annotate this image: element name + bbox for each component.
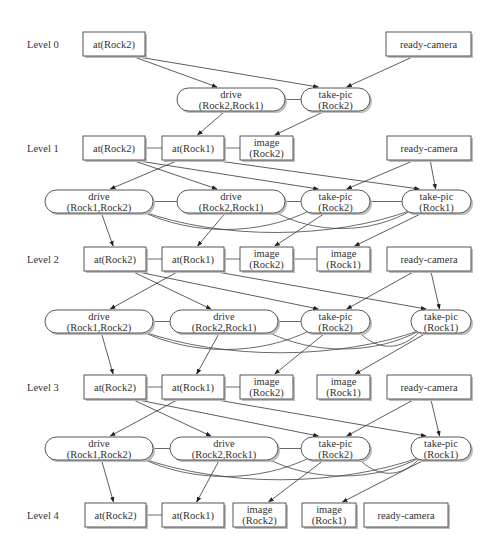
action-node: take-pic(Rock1) — [402, 190, 473, 215]
node-argument: (Rock1) — [326, 387, 361, 399]
action-node: drive(Rock1,Rock2) — [45, 190, 155, 215]
nodes-layer: at(Rock2)ready-cameradrive(Rock2,Rock1)t… — [45, 32, 473, 529]
node-argument: (Rock2) — [318, 100, 353, 112]
precondition-edge — [431, 399, 440, 436]
planning-graph: at(Rock2)ready-cameradrive(Rock2,Rock1)t… — [0, 0, 497, 551]
node-label: drive — [220, 191, 242, 202]
precondition-edge — [110, 271, 179, 309]
node-label: image — [254, 376, 280, 387]
level-label-2: Level 2 — [27, 254, 59, 265]
node-label: at(Rock1) — [172, 254, 214, 266]
node-label: image — [331, 376, 357, 387]
precondition-edge — [347, 271, 415, 309]
node-label: at(Rock1) — [172, 510, 214, 522]
node-label: drive — [88, 311, 110, 322]
precondition-edge — [133, 56, 319, 87]
precondition-edge — [212, 399, 426, 436]
action-node: drive(Rock2,Rock1) — [177, 190, 287, 215]
action-node: drive(Rock2,Rock1) — [170, 437, 280, 462]
node-argument: (Rock1) — [424, 322, 459, 334]
effect-edge — [198, 111, 226, 135]
proposition-node: at(Rock1) — [162, 503, 226, 529]
proposition-node: image(Rock2) — [233, 503, 288, 529]
node-label: drive — [88, 438, 110, 449]
action-node: take-pic(Rock2) — [301, 88, 372, 113]
precondition-edge — [431, 271, 440, 309]
action-node: drive(Rock2,Rock1) — [177, 88, 287, 113]
node-argument: (Rock2) — [318, 449, 353, 461]
action-node: take-pic(Rock1) — [411, 310, 473, 335]
node-argument: (Rock2) — [249, 148, 284, 160]
effect-edge — [342, 460, 424, 502]
node-argument: (Rock1,Rock2) — [67, 449, 132, 461]
node-label: take-pic — [424, 438, 458, 449]
action-node: take-pic(Rock2) — [301, 190, 372, 215]
node-label: take-pic — [319, 438, 353, 449]
node-argument: (Rock1,Rock2) — [67, 322, 132, 334]
node-label: drive — [88, 191, 110, 202]
node-argument: (Rock2,Rock1) — [192, 449, 257, 461]
node-argument: (Rock1) — [424, 449, 459, 461]
node-label: image — [254, 248, 280, 259]
precondition-edge — [212, 271, 426, 309]
node-label: at(Rock2) — [93, 39, 135, 51]
action-node: take-pic(Rock2) — [301, 310, 372, 335]
node-argument: (Rock2) — [242, 515, 277, 527]
effect-edge — [275, 213, 325, 246]
node-argument: (Rock1) — [326, 259, 361, 271]
node-label: drive — [213, 311, 235, 322]
level-label-1: Level 1 — [27, 143, 59, 154]
node-label: take-pic — [420, 191, 454, 202]
proposition-node: at(Rock2) — [83, 136, 147, 162]
proposition-node: image(Rock1) — [317, 375, 372, 401]
effect-edge — [197, 333, 220, 374]
effect-edge — [197, 460, 220, 502]
proposition-node: at(Rock2) — [84, 247, 148, 273]
proposition-node: ready-camera — [364, 503, 450, 529]
node-argument: (Rock1) — [312, 515, 347, 527]
node-label: ready-camera — [400, 143, 457, 154]
precondition-edge — [134, 399, 319, 436]
precondition-edge — [110, 399, 179, 436]
proposition-node: image(Rock2) — [240, 247, 295, 273]
edges-layer — [101, 56, 439, 502]
action-node: take-pic(Rock2) — [301, 437, 372, 462]
effect-edge — [101, 460, 113, 502]
node-label: at(Rock2) — [93, 143, 135, 155]
effect-edge — [275, 333, 325, 374]
node-label: drive — [220, 89, 242, 100]
precondition-edge — [131, 399, 211, 436]
proposition-node: ready-camera — [387, 136, 473, 162]
node-label: take-pic — [319, 89, 353, 100]
precondition-edge — [131, 271, 211, 309]
node-argument: (Rock2) — [318, 322, 353, 334]
proposition-node: at(Rock1) — [162, 375, 226, 401]
proposition-node: ready-camera — [386, 32, 473, 58]
node-argument: (Rock2,Rock1) — [199, 100, 264, 112]
node-argument: (Rock2,Rock1) — [192, 322, 257, 334]
node-label: at(Rock1) — [172, 382, 214, 394]
action-node: drive(Rock1,Rock2) — [45, 310, 155, 335]
node-argument: (Rock1,Rock2) — [67, 202, 132, 214]
level-label-4: Level 4 — [27, 510, 60, 521]
node-label: image — [254, 137, 280, 148]
node-label: at(Rock2) — [94, 254, 136, 266]
node-label: ready-camera — [400, 39, 457, 50]
node-label: take-pic — [319, 191, 353, 202]
node-label: ready-camera — [400, 382, 457, 393]
node-label: ready-camera — [400, 254, 457, 265]
node-argument: (Rock2) — [249, 259, 284, 271]
level-label-3: Level 3 — [27, 382, 59, 393]
precondition-edge — [347, 399, 415, 436]
action-node: drive(Rock2,Rock1) — [170, 310, 280, 335]
effect-edge — [275, 111, 325, 135]
proposition-node: image(Rock1) — [302, 503, 358, 529]
node-argument: (Rock2,Rock1) — [199, 202, 264, 214]
node-argument: (Rock2) — [318, 202, 353, 214]
proposition-node: at(Rock2) — [84, 375, 148, 401]
precondition-edge — [133, 160, 319, 189]
node-argument: (Rock2) — [249, 387, 284, 399]
node-label: image — [247, 504, 273, 515]
precondition-edge — [430, 160, 435, 189]
precondition-edge — [347, 56, 415, 87]
